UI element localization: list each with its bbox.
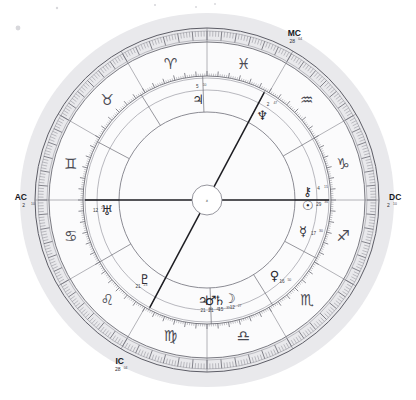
planet-degree-jupiter: 5 [196, 84, 199, 89]
sign-glyph-taurus: ♉ [101, 91, 114, 109]
planet-glyph-moon: ☽ [224, 291, 236, 306]
planet-minute-chiron: 15 [324, 185, 328, 189]
paper-speck [214, 3, 216, 5]
planet-minute-sun: 36 [324, 200, 328, 204]
sign-glyph-leo: ♌ [101, 291, 114, 309]
planet-degree-jupiter_lower: 21 [201, 308, 207, 313]
planet-degree-uranus: 12 [93, 208, 99, 213]
planet-minute-pluto: 23 [144, 283, 148, 287]
center-hub: x [192, 185, 222, 215]
sign-glyph-aquarius: ♒ [300, 91, 313, 109]
planet-minute-jupiter: 10 [203, 83, 207, 87]
sign-glyph-pisces: ♓ [237, 55, 250, 73]
planet-glyph-jupiter: ♃ [192, 92, 204, 107]
planet-degree-saturn: 15 [218, 307, 224, 312]
planet-degree-sun: 29 [316, 202, 322, 207]
axis-minute-ac: 10 [31, 202, 35, 206]
planet-minute-venus: 50 [287, 278, 291, 282]
axis-label-dc: DC [389, 192, 401, 202]
paper-speck [154, 4, 156, 6]
axis-minute-dc: 10 [393, 202, 397, 206]
axis-minute-mc: 04 [298, 37, 302, 41]
planet-minute-uranus: 27 [101, 206, 105, 210]
sign-glyph-libra: ♎ [237, 327, 250, 345]
planet-minute-moon: 27 [238, 304, 242, 308]
sign-glyph-sagittarius: ♐ [336, 227, 349, 245]
planet-degree-venus: 16 [279, 279, 285, 284]
axis-label-mc: MC [288, 28, 301, 38]
planet-glyph-neptune: ♆ [256, 108, 268, 123]
axis-degree-ac: 2 [22, 202, 25, 208]
sign-glyph-capricorn: ♑ [336, 155, 349, 173]
sign-glyph-aries: ♈ [164, 55, 177, 73]
axis-minute-ic: 04 [124, 366, 128, 370]
horoscope-wheel-svg: ♈♓♒♑♐♏♎♍♌♋♊♉ ♃510♆247⚷415☉2936☿1730♀1650… [0, 0, 416, 400]
planet-glyph-mercury: ☿ [299, 224, 307, 239]
sign-glyph-scorpio: ♏ [300, 291, 314, 309]
axis-degree-ic: 28 [115, 366, 121, 372]
planet-degree-neptune: 2 [267, 102, 270, 107]
sign-glyph-gemini: ♊ [64, 155, 77, 173]
paper-speck [195, 6, 197, 8]
planet-minute-mercury: 30 [319, 229, 323, 233]
axis-degree-mc: 28 [290, 38, 296, 44]
planet-minute-neptune: 47 [273, 101, 277, 105]
planet-glyph-chiron: ⚷ [303, 184, 313, 199]
planet-degree-mars: 21 [208, 308, 214, 313]
planet-glyph-venus: ♀ [270, 268, 280, 283]
paper-speck [16, 26, 21, 31]
planet-degree-moon: 12 [230, 305, 236, 310]
horoscope-chart: ♈♓♒♑♐♏♎♍♌♋♊♉ ♃510♆247⚷415☉2936☿1730♀1650… [0, 0, 416, 400]
sign-glyph-cancer: ♋ [64, 227, 77, 245]
axis-degree-dc: 2 [387, 202, 390, 208]
sign-glyph-virgo: ♍ [164, 327, 177, 345]
axis-label-ac: AC [15, 192, 27, 202]
planet-glyph-uranus: ♅ [101, 203, 113, 218]
planet-degree-chiron: 4 [317, 186, 320, 191]
planet-degree-pluto: 21 [135, 284, 141, 289]
paper-speck [56, 7, 58, 9]
planet-degree-mercury: 17 [311, 231, 317, 236]
axis-label-ic: IC [115, 356, 124, 366]
